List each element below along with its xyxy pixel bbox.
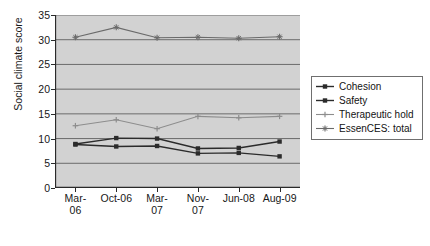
x-axis-tick-mark [198, 188, 199, 192]
legend-item[interactable]: Cohesion [315, 80, 419, 93]
data-point-marker [277, 139, 281, 143]
y-axis-tick-label: 35 [20, 9, 50, 21]
legend-label: EssenCES: total [339, 123, 412, 134]
y-axis-tick-label: 20 [20, 83, 50, 95]
legend-swatch-icon [315, 81, 335, 92]
x-axis-tick-mark [75, 188, 76, 192]
data-point-marker [155, 136, 159, 140]
chart-figure: Social climate score 05101520253035Mar-0… [0, 0, 430, 246]
legend-swatch-icon [315, 109, 335, 120]
legend-label: Therapeutic hold [339, 109, 414, 120]
data-point-marker [114, 136, 118, 140]
series-line [75, 138, 279, 148]
x-axis-tick-mark [280, 188, 281, 192]
data-point-marker [114, 144, 118, 148]
legend-label: Safety [339, 95, 367, 106]
data-point-marker [195, 114, 201, 120]
legend-item[interactable]: Therapeutic hold [315, 108, 419, 121]
legend-swatch-icon [315, 123, 335, 134]
data-point-marker [277, 114, 283, 120]
x-axis-tick-mark [157, 188, 158, 192]
y-axis-tick-label: 10 [20, 133, 50, 145]
y-axis-tick-label: 5 [20, 157, 50, 169]
y-axis-tick-label: 15 [20, 108, 50, 120]
y-axis-tick-mark [51, 188, 55, 189]
series-essences-total [72, 24, 282, 41]
chart-svg [55, 15, 300, 188]
series-line [75, 116, 279, 128]
data-point-marker [113, 24, 119, 30]
legend-label: Cohesion [339, 81, 381, 92]
data-point-marker [155, 144, 159, 148]
x-axis-tick-label: Aug-09 [252, 193, 308, 205]
data-point-marker [323, 84, 327, 88]
y-axis-tick-label: 25 [20, 58, 50, 70]
y-axis-tick-label: 0 [20, 182, 50, 194]
data-point-marker [277, 154, 281, 158]
data-point-marker [277, 34, 283, 40]
data-point-marker [237, 146, 241, 150]
x-axis-tick-mark [116, 188, 117, 192]
data-point-marker [113, 117, 119, 123]
series-line [75, 27, 279, 38]
data-point-marker [196, 146, 200, 150]
y-axis-tick-label: 30 [20, 34, 50, 46]
series-therapeutic-hold [73, 114, 283, 132]
legend-item[interactable]: Safety [315, 94, 419, 107]
legend-item[interactable]: EssenCES: total [315, 122, 419, 135]
data-point-marker [322, 112, 328, 118]
data-point-marker [237, 151, 241, 155]
data-point-marker [154, 126, 160, 132]
chart-legend: CohesionSafetyTherapeutic holdEssenCES: … [311, 76, 423, 140]
data-point-marker [196, 151, 200, 155]
data-point-marker [72, 34, 78, 40]
data-point-marker [73, 123, 79, 129]
data-point-marker [73, 142, 77, 146]
series-safety [73, 142, 282, 158]
x-axis-tick-mark [239, 188, 240, 192]
data-point-marker [323, 98, 327, 102]
data-point-marker [236, 115, 242, 121]
data-point-marker [236, 35, 242, 41]
legend-swatch-icon [315, 95, 335, 106]
plot-area [55, 15, 300, 188]
data-point-marker [322, 126, 328, 132]
